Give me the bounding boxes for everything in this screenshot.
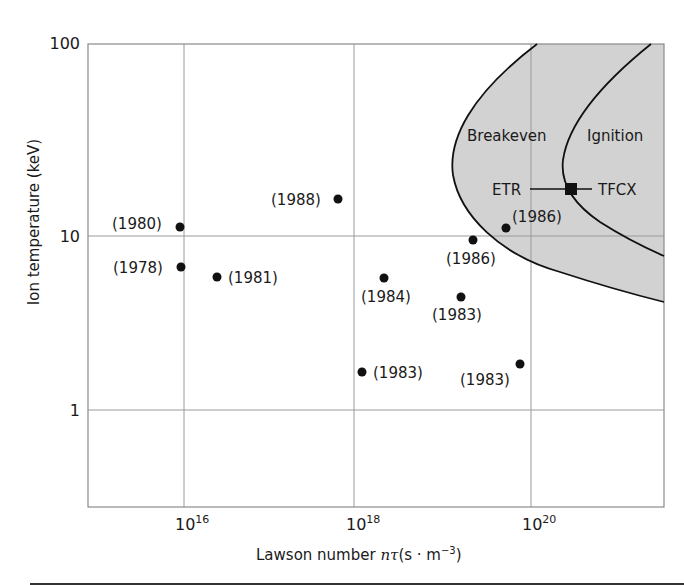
point-label: (1981)	[228, 269, 278, 287]
point-1983-a	[358, 368, 367, 377]
y-axis-label: Ion temperature (keV)	[25, 139, 43, 305]
y-tick-label: 10	[60, 227, 80, 246]
point-1984	[380, 274, 389, 283]
point-label: (1984)	[361, 288, 411, 306]
ignition-label: Ignition	[587, 127, 643, 145]
x-tick-label: 1020	[522, 513, 556, 534]
point-label: (1980)	[112, 215, 162, 233]
y-tick-label: 100	[49, 34, 80, 53]
x-axis-label: Lawson number nτ(s · m−3)	[256, 545, 462, 564]
point-label: (1978)	[113, 259, 163, 277]
etr-label: ETR	[492, 181, 521, 199]
x-tick-label: 1016	[175, 513, 209, 534]
point-1986-b	[502, 224, 511, 233]
y-tick-label: 1	[70, 401, 80, 420]
point-1983-b	[457, 293, 466, 302]
point-label: (1983)	[373, 364, 423, 382]
point-label: (1986)	[446, 250, 496, 268]
point-1986-a	[469, 236, 478, 245]
point-label: (1983)	[460, 371, 510, 389]
breakeven-label: Breakeven	[467, 127, 547, 145]
point-label: (1983)	[432, 306, 482, 324]
point-1983-c	[516, 360, 525, 369]
point-label: (1988)	[271, 191, 321, 209]
etr-tfcx-square-marker	[565, 183, 577, 195]
lawson-chart: Breakeven Ignition ETR TFCX (1980) (1978…	[0, 0, 684, 585]
x-tick-label: 1018	[346, 513, 380, 534]
point-1981	[213, 273, 222, 282]
point-1988	[334, 195, 343, 204]
tfcx-label: TFCX	[597, 181, 637, 199]
point-label: (1986)	[512, 208, 562, 226]
point-1980	[176, 223, 185, 232]
point-1978	[177, 263, 186, 272]
